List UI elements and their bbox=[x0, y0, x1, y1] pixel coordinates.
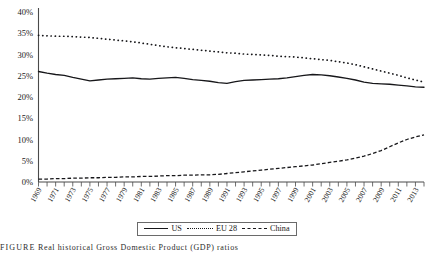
x-axis-tick-label: 2001 bbox=[302, 186, 317, 204]
x-axis-tick-label: 1995 bbox=[251, 186, 266, 204]
x-axis-tick-label: 2009 bbox=[371, 186, 386, 204]
x-axis-tick-label: 2011 bbox=[388, 186, 403, 204]
x-axis-tick-label: 1989 bbox=[200, 186, 215, 204]
x-axis-tick-label: 1991 bbox=[217, 186, 232, 204]
x-axis-tick-label: 2005 bbox=[337, 186, 352, 204]
x-axis-tick-label: 2013 bbox=[405, 186, 420, 204]
y-axis-tick-label: 10% bbox=[17, 135, 33, 145]
x-axis-tick-label: 1987 bbox=[183, 186, 198, 204]
legend-item-eu: EU 28 bbox=[187, 225, 237, 233]
y-axis-tick-label: 15% bbox=[17, 113, 33, 123]
y-axis-tick-label: 0% bbox=[22, 177, 33, 187]
series-line-china bbox=[39, 135, 425, 179]
legend-label-eu: EU 28 bbox=[216, 225, 237, 233]
x-axis-tick-label: 1973 bbox=[63, 186, 78, 204]
x-axis-tick-label: 2003 bbox=[320, 186, 335, 204]
x-axis-tick-label: 1971 bbox=[45, 186, 60, 204]
x-axis-tick-label: 1997 bbox=[268, 186, 283, 204]
figure-caption-text: Real historical Gross Domestic Product (… bbox=[38, 243, 238, 252]
x-axis-tick-label: 1983 bbox=[148, 186, 163, 204]
legend-item-us: US bbox=[144, 225, 181, 233]
x-axis-tick-label: 1993 bbox=[234, 186, 249, 204]
figure-caption: FIGURE Real historical Gross Domestic Pr… bbox=[0, 243, 435, 252]
legend-label-china: China bbox=[270, 225, 290, 233]
legend-label-us: US bbox=[171, 225, 181, 233]
x-axis-tick-label: 1969 bbox=[28, 186, 43, 204]
y-axis-tick-label: 5% bbox=[22, 156, 33, 166]
series-line-us bbox=[39, 72, 425, 88]
x-axis-tick-label: 1975 bbox=[80, 186, 95, 204]
y-axis-tick-label: 30% bbox=[17, 50, 33, 60]
x-axis-tick-label: 1985 bbox=[165, 186, 180, 204]
line-chart-plot: 40%35%30%25%20%15%10%5%0%196919711973197… bbox=[0, 0, 435, 220]
y-axis-tick-label: 20% bbox=[17, 92, 33, 102]
x-axis-tick-label: 2007 bbox=[354, 186, 369, 204]
y-axis-tick-label: 25% bbox=[17, 71, 33, 81]
y-axis-tick-label: 40% bbox=[17, 7, 33, 17]
x-axis-tick-label: 1999 bbox=[285, 186, 300, 204]
figure-caption-label: FIGURE bbox=[0, 243, 36, 252]
y-axis-tick-label: 35% bbox=[17, 28, 33, 38]
legend-item-china: China bbox=[242, 225, 290, 233]
legend-swatch-solid bbox=[144, 228, 168, 229]
legend-swatch-dotted bbox=[187, 228, 213, 229]
chart-figure: 40%35%30%25%20%15%10%5%0%196919711973197… bbox=[0, 0, 435, 255]
x-axis-tick-label: 1981 bbox=[131, 186, 146, 204]
legend-swatch-dashed bbox=[242, 228, 267, 229]
chart-legend: US EU 28 China bbox=[137, 222, 297, 236]
x-axis-tick-label: 1977 bbox=[97, 186, 112, 204]
series-line-eu bbox=[39, 35, 425, 82]
x-axis-tick-label: 1979 bbox=[114, 186, 129, 204]
